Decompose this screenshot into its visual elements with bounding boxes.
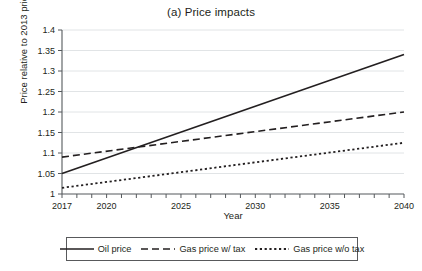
legend-label-gas-price-with-tax: Gas price w/ tax <box>179 244 245 254</box>
chart-plot-area: 11.051.11.151.21.251.31.351.420172020202… <box>0 0 422 271</box>
svg-text:1.3: 1.3 <box>42 66 55 76</box>
price-impacts-figure: (a) Price impacts Price relative to 2013… <box>0 0 422 271</box>
x-axis <box>62 194 404 198</box>
legend-item-oil-price: Oil price <box>60 244 132 254</box>
svg-text:1.1: 1.1 <box>42 148 55 158</box>
legend-label-gas-price-without-tax: Gas price w/o tax <box>293 244 364 254</box>
legend-item-gas-price-without-tax: Gas price w/o tax <box>255 244 364 254</box>
legend-swatch-dashed-icon <box>141 245 175 253</box>
x-axis-label: Year <box>62 210 404 221</box>
legend-item-gas-price-with-tax: Gas price w/ tax <box>141 244 245 254</box>
chart-legend: Oil price Gas price w/ tax Gas price w/o… <box>66 237 358 261</box>
svg-text:1: 1 <box>50 189 55 199</box>
svg-text:1.35: 1.35 <box>37 46 55 56</box>
gridlines <box>62 30 404 174</box>
svg-text:1.15: 1.15 <box>37 128 55 138</box>
series-line-gas-price-w-o-tax <box>62 143 404 188</box>
legend-swatch-dotted-icon <box>255 245 289 253</box>
data-series <box>62 55 404 188</box>
svg-text:1.25: 1.25 <box>37 87 55 97</box>
svg-text:1.2: 1.2 <box>42 107 55 117</box>
svg-text:1.4: 1.4 <box>42 25 55 35</box>
y-axis <box>58 30 62 194</box>
legend-label-oil-price: Oil price <box>98 244 132 254</box>
legend-swatch-solid-icon <box>60 245 94 253</box>
svg-text:1.05: 1.05 <box>37 169 55 179</box>
series-line-oil-price <box>62 55 404 174</box>
